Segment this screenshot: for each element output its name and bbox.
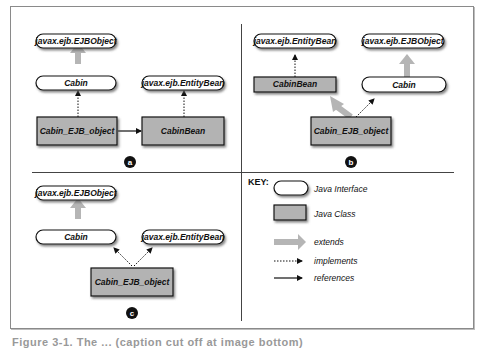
node-label: CabinBean [161,126,205,136]
node-label: javax.ejb.EJBObject [361,36,444,46]
implements-arrow [356,99,374,117]
key-interface-symbol [274,181,308,195]
key-class-symbol [274,205,306,220]
figure-caption: Figure 3-1. The ... (caption cut off at … [12,336,303,348]
badge-label: a [128,158,133,167]
key-label: Java Class [313,209,356,219]
key-title: KEY: [248,177,269,187]
node-label: Cabin [64,232,88,242]
key-label: extends [314,237,345,247]
node-label: Cabin [64,78,88,88]
panel-b: javax.ejb.EntityBean javax.ejb.EJBObject… [253,34,446,168]
node-label: Cabin_EJB_object [314,126,390,136]
node-label: CabinBean [273,79,317,89]
key-label: Java Interface [313,184,368,194]
node-label: javax.ejb.EntityBean [141,232,225,242]
implements-arrow [114,248,132,266]
node-label: Cabin_EJB_object [95,277,171,287]
key-label: implements [314,256,358,266]
extends-arrow [330,96,351,117]
panel-c: javax.ejb.EJBObject Cabin javax.ejb.Enti… [34,186,224,319]
key-label: references [314,273,355,283]
node-label: javax.ejb.EntityBean [253,36,337,46]
key-legend: KEY: Java Interface Java Class extends i… [248,177,368,283]
implements-arrow [134,248,152,266]
badge-label: c [130,309,135,318]
extends-arrow [399,54,415,77]
badge-label: b [349,158,354,167]
node-label: javax.ejb.EJBObject [34,188,117,198]
panel-a: javax.ejb.EJBObject Cabin javax.ejb.Enti… [34,34,224,168]
key-extends-symbol [274,234,306,250]
node-label: javax.ejb.EntityBean [141,78,225,88]
node-label: Cabin_EJB_object [40,126,116,136]
node-label: Cabin [392,80,416,90]
node-label: javax.ejb.EJBObject [34,36,117,46]
extends-arrow [70,198,86,219]
